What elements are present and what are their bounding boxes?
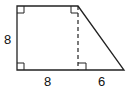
right-angle-marker-bottom-right (78, 63, 86, 70)
label-bottom-left: 8 (44, 74, 51, 89)
right-angle-marker-bottom-left (17, 63, 24, 70)
trapezoid-outline (17, 6, 124, 70)
right-angle-marker-top-left (17, 6, 24, 13)
trapezoid-diagram: 8 8 6 (0, 0, 131, 90)
right-angle-marker-top-right (71, 6, 78, 13)
label-bottom-right: 6 (98, 74, 105, 89)
label-left-side: 8 (4, 32, 11, 47)
